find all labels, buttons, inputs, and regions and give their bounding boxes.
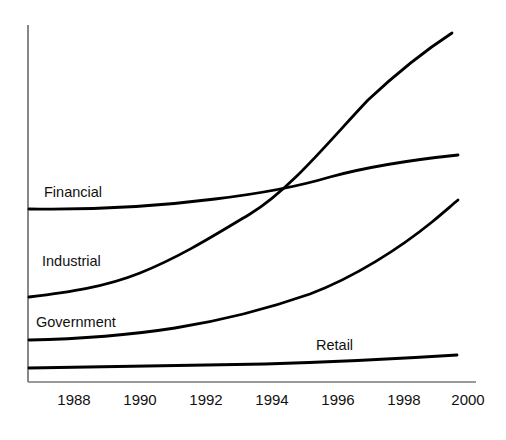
x-axis-tick-1994: 1994	[248, 392, 296, 407]
series-label-government: Government	[36, 315, 116, 330]
x-axis-tick-1992: 1992	[182, 392, 230, 407]
x-axis-tick-2000: 2000	[444, 392, 492, 407]
x-axis-tick-1998: 1998	[380, 392, 428, 407]
series-label-industrial: Industrial	[42, 254, 101, 269]
series-label-financial: Financial	[44, 185, 102, 200]
chart-canvas	[0, 0, 506, 440]
series-line-financial	[29, 155, 458, 209]
x-axis-tick-1996: 1996	[314, 392, 362, 407]
x-axis-tick-1990: 1990	[116, 392, 164, 407]
series-line-retail	[29, 355, 457, 368]
line-chart: Financial Industrial Government Retail 1…	[0, 0, 506, 440]
x-axis-tick-1988: 1988	[50, 392, 98, 407]
series-label-retail: Retail	[316, 338, 353, 353]
